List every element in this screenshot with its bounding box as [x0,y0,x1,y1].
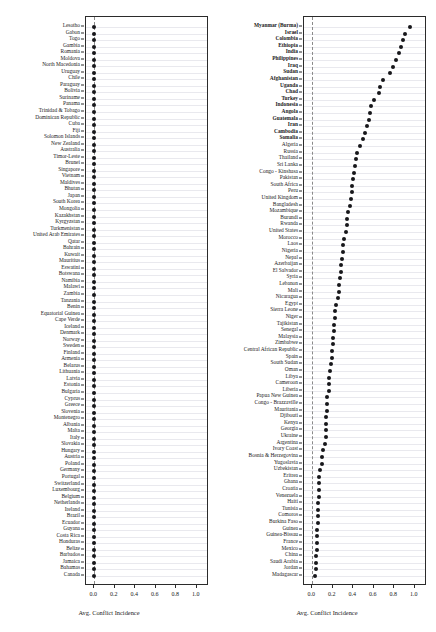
y-axis-tick [81,261,84,262]
category-label: Jordan [284,566,298,571]
data-point [331,342,335,346]
y-axis-tick [81,91,84,92]
data-point [92,169,96,173]
category-label: Indonesia [276,103,298,108]
y-axis-tick [299,528,302,529]
y-axis-tick [81,561,84,562]
data-point [92,358,96,362]
y-axis-tick [81,476,84,477]
data-point [315,528,319,532]
category-label: Peru [288,189,298,194]
y-axis-tick [81,463,84,464]
data-point [92,143,96,147]
data-point [92,38,96,42]
x-axis-tick [393,585,394,588]
data-point [92,45,96,49]
category-label: Yugoslavia [274,460,298,465]
y-axis-tick [299,270,302,271]
data-point [341,250,345,254]
category-label: Ukraine [281,433,298,438]
data-point [92,515,96,519]
data-point [320,455,324,459]
y-axis-tick [299,164,302,165]
y-axis-tick [81,39,84,40]
y-axis-tick [299,138,302,139]
category-label: Venezuela [276,493,298,498]
data-point [92,234,96,238]
y-axis-tick [81,516,84,517]
y-axis-tick [81,241,84,242]
y-axis-tick [81,137,84,138]
data-point [92,541,96,545]
data-point [350,184,354,188]
y-axis-tick [81,110,84,111]
y-axis-tick [81,71,84,72]
y-axis-tick [81,496,84,497]
data-point [349,197,353,201]
y-axis-tick [81,156,84,157]
y-axis-tick [81,450,84,451]
data-point [339,263,343,267]
category-label: United Kingdom [262,195,298,200]
chart-panel-right: Myanmar (Burma)IsraelColombiaEthiopiaInd… [218,0,436,632]
y-axis-tick [299,369,302,370]
category-label-column-right: Myanmar (Burma)IsraelColombiaEthiopiaInd… [218,0,298,632]
category-label: Oman [285,367,298,372]
data-point [333,316,337,320]
y-axis-tick [81,228,84,229]
category-label: Georgia [281,427,298,432]
data-point [323,442,327,446]
data-point [350,190,354,194]
data-points-right [304,17,425,584]
data-point [325,402,329,406]
category-label: Comoros [278,513,298,518]
category-label: Angola [282,109,298,114]
data-point [92,58,96,62]
x-axis-tick-label: 1.0 [410,591,418,597]
category-label: Uganda [280,83,298,88]
data-point [315,541,319,545]
data-point [92,332,96,336]
data-point [92,424,96,428]
y-axis-tick [81,78,84,79]
y-axis-tick [299,409,302,410]
category-label: United States [269,228,298,233]
data-point [351,177,355,181]
y-axis-tick [81,280,84,281]
data-point [92,90,96,94]
category-label: Haiti [287,500,298,505]
data-point [92,371,96,375]
y-axis-tick [81,307,84,308]
data-point [314,561,318,565]
y-axis-tick [81,568,84,569]
data-point [92,528,96,532]
data-point [337,290,341,294]
data-point [92,162,96,166]
data-point [92,182,96,186]
category-label: Papua New Guinea [256,394,298,399]
x-axis-tick-label: 0.6 [369,591,377,597]
data-point [92,293,96,297]
data-point [92,117,96,121]
category-label: Guinea [282,526,298,531]
y-axis-tick [81,542,84,543]
y-axis-tick [299,403,302,404]
data-point [92,548,96,552]
y-axis-tick [81,300,84,301]
y-axis-tick [81,522,84,523]
y-axis-tick [299,178,302,179]
category-label: Mozambique [270,209,298,214]
data-point [340,257,344,261]
category-label: Cambodia [274,129,298,134]
category-label: Pakistan [280,175,298,180]
x-axis-tick-label: 0.2 [328,591,336,597]
y-axis-tick [299,151,302,152]
x-axis-tick [352,585,353,588]
data-point [333,309,337,313]
data-point [92,561,96,565]
category-label: Croatia [282,486,298,491]
category-label: China [285,552,298,557]
category-label: Madagascar [272,572,298,577]
data-point [330,349,334,353]
data-point [342,237,346,241]
